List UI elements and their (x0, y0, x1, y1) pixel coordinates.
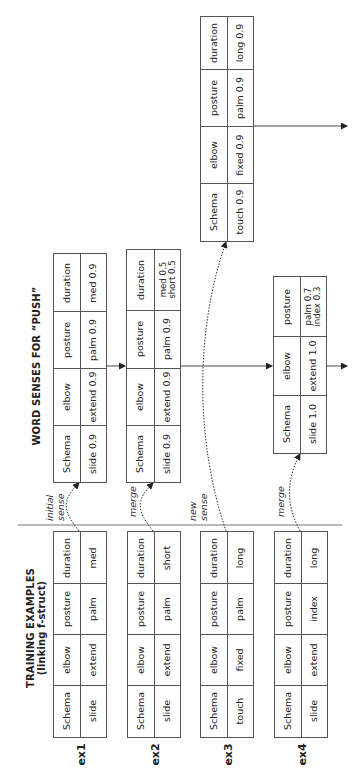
sense-table-4: posture palm 0.7index 0.3 elbow extend 1… (273, 276, 327, 454)
attr-name: posture (136, 321, 146, 357)
training-table-ex1: duration med posture palm elbow extend S… (53, 531, 107, 738)
attr-value: long (235, 547, 245, 568)
attr-value: slide (162, 700, 172, 722)
training-title-line2: (linking f-struct) (36, 543, 47, 713)
senses-title: WORD SENSES FOR “PUSH” (31, 266, 42, 466)
attr-value: med 0.9 (88, 263, 98, 302)
attr-value: long 0.9 (235, 24, 245, 63)
attr-value: fixed 0.9 (235, 134, 245, 175)
attr-value: med 0.5short 0.5 (158, 261, 175, 299)
attr-name: elbow (136, 645, 146, 673)
attr-name: elbow (62, 645, 72, 673)
attr-value: extend (88, 643, 98, 676)
attr-value: extend 1.0 (308, 340, 318, 391)
attr-value: slide (88, 700, 98, 722)
attr-name: duration (62, 263, 72, 303)
attr-value: palm (162, 597, 172, 621)
attr-value: slide 0.9 (88, 433, 98, 473)
attr-value: slide 0.9 (162, 433, 172, 473)
attr-value: slide 1.0 (308, 404, 318, 444)
dotted-link-ex3 (203, 242, 226, 531)
sense-table-1: duration med 0.9 posture palm 0.9 elbow … (53, 253, 107, 483)
attr-value: palm (88, 597, 98, 621)
attr-value: touch 0.9 (235, 190, 245, 235)
attr-value: palm 0.9 (162, 318, 172, 360)
attr-name: Schema (136, 434, 146, 472)
training-title-line1: TRAINING EXAMPLES (25, 543, 36, 713)
attr-value: long (309, 547, 319, 568)
attr-name: posture (283, 590, 293, 626)
attr-name: duration (209, 23, 219, 63)
attr-name: duration (283, 538, 293, 578)
attr-name: posture (136, 590, 146, 626)
attr-name: Schema (209, 692, 219, 730)
attr-name: Schema (62, 692, 72, 730)
attr-name: Schema (283, 692, 293, 730)
training-table-ex3: duration long posture palm elbow fixed S… (200, 531, 254, 738)
attr-name: duration (136, 538, 146, 578)
attr-value: palm 0.9 (88, 319, 98, 361)
annotation-merge-ex4: merge (275, 486, 286, 517)
attr-value: touch (235, 698, 245, 725)
attr-value: palm 0.7index 0.3 (304, 287, 321, 327)
attr-name: Schema (209, 193, 219, 231)
attr-name: elbow (62, 382, 72, 410)
training-table-ex2: duration short posture palm elbow extend… (127, 531, 181, 738)
example-label-ex3: ex3 (222, 743, 235, 765)
attr-value: extend 0.9 (88, 371, 98, 422)
attr-name: Schema (136, 692, 146, 730)
annotation-new-sense: new sense (187, 493, 209, 521)
attr-name: posture (62, 321, 72, 357)
attr-name: elbow (282, 351, 292, 379)
annotation-merge-ex2: merge (127, 486, 138, 517)
training-table-ex4: duration long posture index elbow extend… (274, 531, 328, 738)
attr-name: elbow (209, 140, 219, 168)
attr-name: duration (62, 538, 72, 578)
attr-name: Schema (62, 434, 72, 472)
dotted-link-ex1 (66, 483, 79, 531)
sense-table-3: duration long 0.9 posture palm 0.9 elbow… (200, 16, 254, 242)
attr-name: elbow (136, 382, 146, 410)
attr-name: elbow (283, 645, 293, 673)
attr-value: extend 0.9 (162, 371, 172, 422)
attr-name: elbow (209, 645, 219, 673)
attr-name: Schema (282, 405, 292, 443)
dotted-link-ex4 (290, 454, 301, 531)
attr-name: posture (282, 288, 292, 324)
attr-value: palm (235, 597, 245, 621)
attr-name: duration (136, 260, 146, 300)
attr-value: fixed (235, 648, 245, 671)
attr-value: short (162, 545, 172, 569)
example-label-ex1: ex1 (75, 743, 88, 765)
attr-name: posture (209, 79, 219, 115)
dotted-link-ex2 (140, 483, 153, 531)
attr-name: posture (209, 590, 219, 626)
attr-name: posture (62, 590, 72, 626)
attr-name: duration (209, 538, 219, 578)
annotation-initial-sense: initial sense (44, 493, 66, 521)
attr-value: slide (309, 700, 319, 722)
example-label-ex2: ex2 (149, 743, 162, 765)
attr-value: index (309, 596, 319, 622)
attr-value: palm 0.9 (235, 77, 245, 119)
attr-value: extend (162, 643, 172, 676)
training-title: TRAINING EXAMPLES (linking f-struct) (25, 543, 47, 713)
attr-value: extend (309, 643, 319, 676)
example-label-ex4: ex4 (296, 743, 309, 765)
attr-value: med (88, 547, 98, 568)
sense-table-2: duration med 0.5short 0.5 posture palm 0… (126, 249, 181, 483)
